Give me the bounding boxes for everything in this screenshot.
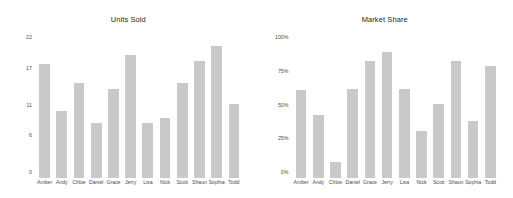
bar <box>108 89 119 178</box>
bar <box>91 123 102 178</box>
x-axis-tick-label: Sophia <box>208 179 225 185</box>
bar <box>177 83 188 178</box>
x-axis-tick-label: Grace <box>105 179 122 185</box>
bar-column <box>53 43 70 178</box>
chart-panel-market-share: Market Share 0%25%50%75%100% AmberAndyCh… <box>257 0 513 198</box>
x-axis-tick-label: Scott <box>174 179 191 185</box>
x-axis-tick-label: Lisa <box>396 179 413 185</box>
bar <box>229 104 240 178</box>
y-axis-tick: 6 <box>29 132 32 138</box>
bar-series-units-sold <box>36 43 243 178</box>
bar <box>485 66 496 178</box>
bar <box>399 89 410 178</box>
x-axis-tick-label: Grace <box>361 179 378 185</box>
bar-series-market-share <box>293 43 500 178</box>
y-axis-tick: 25% <box>278 135 289 141</box>
x-axis-tick-label: Daniel <box>88 179 105 185</box>
bar <box>416 131 427 178</box>
x-axis-tick-label: Todd <box>225 179 242 185</box>
bar <box>56 111 67 179</box>
bar <box>313 115 324 178</box>
bar-column <box>293 43 310 178</box>
x-axis-tick-label: Jerry <box>379 179 396 185</box>
bar-column <box>156 43 173 178</box>
bar-column <box>430 43 447 178</box>
bar <box>211 46 222 178</box>
bar-column <box>191 43 208 178</box>
x-axis-tick-label: Shaun <box>191 179 208 185</box>
x-axis-labels-units-sold: AmberAndyChloeDanielGraceJerryLisaNickSc… <box>36 179 243 185</box>
x-axis-tick-label: Chloe <box>70 179 87 185</box>
bar <box>142 123 153 178</box>
x-axis-tick-label: Nick <box>156 179 173 185</box>
y-axis-tick: 0% <box>281 169 289 175</box>
x-axis-tick-label: Nick <box>413 179 430 185</box>
plot-area-units-sold: 06111722 <box>36 43 243 178</box>
bar-column <box>413 43 430 178</box>
bar-chart-figure: Units Sold 06111722 AmberAndyChloeDaniel… <box>0 0 513 198</box>
bar-column <box>36 43 53 178</box>
x-axis-tick-label: Amber <box>293 179 310 185</box>
bar-column <box>139 43 156 178</box>
y-axis-tick: 22 <box>26 34 32 40</box>
bar <box>451 61 462 178</box>
bar-column <box>379 43 396 178</box>
x-axis-tick-label: Andy <box>53 179 70 185</box>
bar-column <box>70 43 87 178</box>
y-axis-tick: 100% <box>275 34 289 40</box>
y-axis-tick: 17 <box>26 65 32 71</box>
page-title: Market Share <box>257 15 513 24</box>
bar-column <box>344 43 361 178</box>
bar-column <box>482 43 499 178</box>
bar <box>365 61 376 178</box>
x-axis-tick-label: Amber <box>36 179 53 185</box>
x-axis-tick-label: Shaun <box>447 179 464 185</box>
bar <box>296 90 307 178</box>
x-axis-labels-market-share: AmberAndyChloeDanielGraceJerryLisaNickSc… <box>293 179 500 185</box>
x-axis-tick-label: Andy <box>310 179 327 185</box>
bar-column <box>174 43 191 178</box>
bar-column <box>122 43 139 178</box>
bar <box>433 104 444 178</box>
x-axis-tick-label: Scott <box>430 179 447 185</box>
bar-column <box>396 43 413 178</box>
bar <box>194 61 205 178</box>
bar-column <box>310 43 327 178</box>
bar-column <box>447 43 464 178</box>
x-axis-tick-label: Jerry <box>122 179 139 185</box>
bar <box>39 64 50 178</box>
y-axis-tick: 11 <box>27 102 33 108</box>
x-axis-tick-label: Lisa <box>139 179 156 185</box>
x-axis-tick-label: Todd <box>482 179 499 185</box>
plot-area-market-share: 0%25%50%75%100% <box>293 43 500 178</box>
bar <box>125 55 136 178</box>
page-title: Units Sold <box>0 15 257 24</box>
bar-column <box>88 43 105 178</box>
bar-column <box>105 43 122 178</box>
x-axis-tick-label: Daniel <box>344 179 361 185</box>
bar <box>468 121 479 178</box>
bar <box>382 52 393 178</box>
bar <box>347 89 358 178</box>
bar <box>74 83 85 178</box>
y-axis-tick: 50% <box>278 102 289 108</box>
x-axis-tick-label: Chloe <box>327 179 344 185</box>
bar <box>330 162 341 178</box>
x-axis-tick-label: Sophia <box>465 179 482 185</box>
chart-panel-units-sold: Units Sold 06111722 AmberAndyChloeDaniel… <box>0 0 257 198</box>
bar-column <box>465 43 482 178</box>
bar-column <box>225 43 242 178</box>
bar <box>160 118 171 178</box>
bar-column <box>327 43 344 178</box>
y-axis-tick: 75% <box>278 68 289 74</box>
bar-column <box>208 43 225 178</box>
y-axis-tick: 0 <box>29 169 32 175</box>
bar-column <box>361 43 378 178</box>
